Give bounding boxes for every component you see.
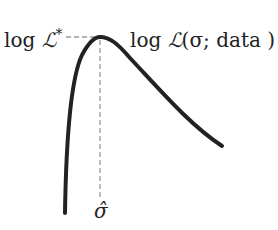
curve-label: log ℒ(σ; data ) <box>130 28 275 52</box>
log-likelihood-curve <box>65 37 222 213</box>
sigma-hat-label: σ̂ <box>94 199 109 223</box>
max-log-likelihood-label: log ℒ* <box>4 26 63 52</box>
likelihood-diagram: log ℒ* log ℒ(σ; data ) σ̂ <box>0 0 278 230</box>
